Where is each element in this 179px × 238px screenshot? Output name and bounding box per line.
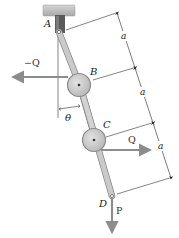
label-c: C: [103, 119, 111, 130]
force-label-neg-q: −Q: [24, 57, 40, 68]
angle-label-theta: θ: [65, 112, 71, 123]
extension-line-d: [117, 177, 173, 194]
dimension-label-bc: a: [140, 87, 145, 97]
linkage-diagram: a a a −Q B C Q θ A D P: [0, 0, 179, 238]
label-d: D: [98, 198, 107, 209]
pin-d: [111, 195, 114, 198]
ceiling-support: [43, 5, 75, 16]
dimension-label-cd: a: [158, 141, 163, 151]
label-b: B: [89, 66, 97, 77]
theta-arc: [59, 106, 80, 109]
force-label-p: P: [116, 205, 123, 216]
force-label-q: Q: [128, 134, 136, 145]
dimension-label-ab: a: [121, 31, 126, 41]
extension-line-b: [93, 67, 137, 80]
pin-a: [57, 30, 60, 33]
label-a: A: [43, 18, 51, 29]
